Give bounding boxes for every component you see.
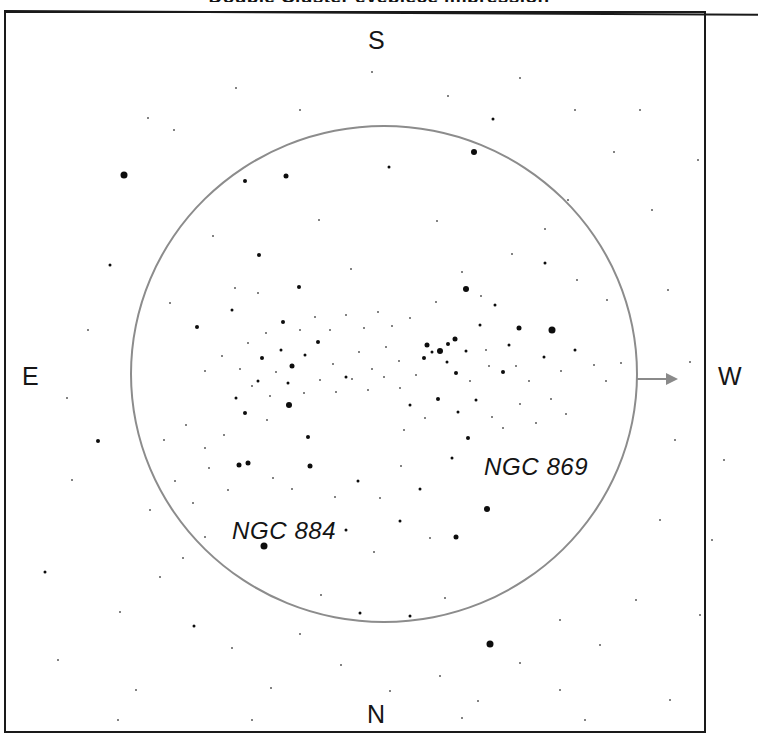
star-point bbox=[439, 675, 441, 677]
star-point bbox=[447, 95, 449, 97]
star-point bbox=[528, 380, 530, 382]
star-point bbox=[281, 320, 285, 324]
star-point bbox=[535, 422, 537, 424]
star-point bbox=[465, 350, 468, 353]
star-point bbox=[297, 285, 301, 289]
star-point bbox=[659, 519, 661, 521]
star-point bbox=[437, 348, 443, 354]
star-point bbox=[185, 424, 187, 426]
star-point bbox=[291, 488, 293, 490]
star-point bbox=[484, 506, 490, 512]
star-point bbox=[290, 364, 295, 369]
star-point bbox=[371, 368, 373, 370]
star-point bbox=[314, 316, 316, 318]
star-point bbox=[409, 404, 412, 407]
star-point bbox=[424, 417, 426, 419]
star-point bbox=[316, 340, 320, 344]
star-point bbox=[231, 309, 234, 312]
star-point bbox=[335, 391, 337, 393]
star-point bbox=[117, 719, 119, 721]
star-point bbox=[431, 351, 434, 354]
star-point bbox=[44, 571, 47, 574]
cardinal-label-south: S bbox=[368, 26, 385, 55]
star-point bbox=[192, 502, 194, 504]
star-point bbox=[651, 209, 653, 211]
star-point bbox=[345, 314, 347, 316]
star-point bbox=[454, 371, 458, 375]
star-point bbox=[543, 356, 546, 359]
star-point bbox=[235, 87, 237, 89]
chart-title-remnant: Double Cluster eyepiece impression bbox=[0, 0, 758, 2]
star-point bbox=[147, 117, 149, 119]
star-point bbox=[350, 268, 352, 270]
star-point bbox=[174, 480, 176, 482]
star-point bbox=[257, 292, 259, 294]
star-point bbox=[306, 435, 310, 439]
star-point bbox=[383, 376, 385, 378]
star-point bbox=[723, 459, 725, 461]
star-point bbox=[593, 364, 595, 366]
star-point bbox=[371, 71, 373, 73]
star-point bbox=[491, 416, 493, 418]
star-point bbox=[270, 687, 272, 689]
star-point bbox=[385, 346, 387, 348]
star-point bbox=[363, 327, 365, 329]
star-point bbox=[635, 599, 637, 601]
star-point bbox=[451, 457, 454, 460]
star-point bbox=[169, 302, 171, 304]
star-point bbox=[303, 392, 305, 394]
star-point bbox=[329, 329, 331, 331]
star-point bbox=[231, 647, 233, 649]
star-point bbox=[280, 349, 283, 352]
star-point bbox=[235, 397, 238, 400]
star-point bbox=[461, 717, 463, 719]
star-point bbox=[299, 329, 301, 331]
star-point bbox=[163, 439, 165, 441]
star-point bbox=[318, 219, 320, 221]
star-point bbox=[173, 129, 175, 131]
star-point bbox=[457, 411, 460, 414]
star-point bbox=[284, 174, 289, 179]
star-point bbox=[237, 463, 242, 468]
star-point bbox=[243, 411, 247, 415]
star-point bbox=[409, 317, 411, 319]
star-point bbox=[469, 380, 471, 382]
star-point bbox=[204, 370, 206, 372]
star-point bbox=[299, 633, 301, 635]
star-point bbox=[550, 398, 552, 400]
star-point bbox=[519, 403, 521, 405]
star-point bbox=[502, 427, 504, 429]
star-point bbox=[265, 332, 267, 334]
star-point bbox=[501, 370, 505, 374]
star-point bbox=[667, 289, 669, 291]
star-point bbox=[299, 109, 301, 111]
star-point bbox=[574, 349, 577, 352]
drift-direction-arrow bbox=[636, 362, 678, 396]
star-point bbox=[425, 343, 430, 348]
star-chart-canvas: Double Cluster eyepiece impression S N E… bbox=[0, 0, 758, 747]
star-point bbox=[389, 690, 391, 692]
cluster-label-ngc884: NGC 884 bbox=[232, 517, 336, 545]
star-point bbox=[275, 371, 277, 373]
star-point bbox=[87, 329, 89, 331]
star-point bbox=[689, 361, 691, 363]
star-point bbox=[519, 77, 521, 79]
star-point bbox=[466, 436, 470, 440]
star-point bbox=[461, 271, 463, 273]
star-point bbox=[340, 664, 342, 666]
star-point bbox=[436, 220, 438, 222]
star-point bbox=[606, 299, 608, 301]
star-point bbox=[320, 594, 322, 596]
star-point bbox=[519, 662, 521, 664]
star-point bbox=[358, 351, 360, 353]
star-point bbox=[195, 325, 199, 329]
star-point bbox=[398, 360, 400, 362]
star-point bbox=[477, 700, 479, 702]
star-point bbox=[576, 279, 578, 281]
star-point bbox=[511, 253, 513, 255]
star-point bbox=[435, 301, 437, 303]
star-point bbox=[446, 361, 449, 364]
star-point bbox=[674, 439, 676, 441]
star-point bbox=[251, 719, 253, 721]
star-point bbox=[121, 172, 128, 179]
